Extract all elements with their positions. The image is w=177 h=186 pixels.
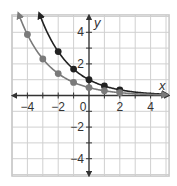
gray-curve-point (116, 89, 123, 96)
dark-curve-point (86, 76, 93, 83)
x-tick-label: 4 (147, 100, 154, 114)
x-tick-label: −4 (21, 100, 35, 114)
x-tick-label: 2 (116, 100, 123, 114)
gray-curve-point (86, 84, 93, 91)
dark-curve-point (55, 48, 62, 55)
y-axis-label: y (93, 15, 102, 30)
gray-curve-point (55, 70, 62, 77)
x-axis-label: x (158, 78, 166, 93)
gray-curve-point (24, 31, 31, 38)
exponential-graph: −4−202442−2−4 x y (0, 0, 177, 186)
gray-curve-point (39, 56, 46, 63)
gray-curve (19, 15, 165, 95)
curves (19, 15, 165, 95)
axes (14, 17, 167, 174)
gray-curve-point (101, 87, 108, 94)
x-tick-label: 0 (80, 100, 87, 114)
y-tick-label: −2 (70, 120, 84, 134)
x-tick-label: −2 (51, 100, 65, 114)
y-tick-label: 4 (77, 25, 84, 39)
y-tick-label: 2 (77, 57, 84, 71)
y-tick-label: −4 (70, 152, 84, 166)
gray-curve-point (70, 79, 77, 86)
dark-curve-point (70, 66, 77, 73)
